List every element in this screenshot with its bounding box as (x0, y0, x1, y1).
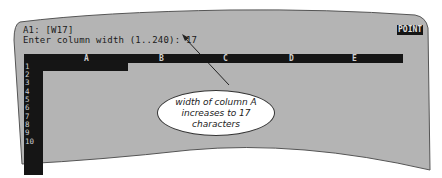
command-prompt[interactable]: Enter column width (1..240): 17 (23, 35, 197, 45)
annotation-callout: width of column A increases to 17 charac… (157, 90, 275, 136)
column-header-e[interactable]: E (352, 54, 357, 63)
callout-line-3: characters (192, 119, 240, 130)
row-header-10[interactable]: 10 (25, 138, 34, 146)
column-header-b[interactable]: B (159, 54, 164, 63)
callout-line-2: increases to 17 (181, 108, 250, 119)
column-header-a[interactable]: A (84, 54, 89, 63)
column-header-d[interactable]: D (289, 54, 294, 63)
callout-line-1: width of column A (175, 97, 256, 108)
mode-indicator: POINT (397, 25, 423, 35)
cell-address-status: A1: [W17] (23, 25, 74, 35)
column-header-c[interactable]: C (223, 54, 228, 63)
cell-pointer-a1[interactable] (43, 63, 128, 71)
column-header-bar (24, 54, 403, 63)
